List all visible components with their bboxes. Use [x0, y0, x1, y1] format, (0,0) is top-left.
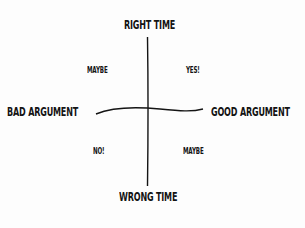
quadrant-label-bottom-right: MAYBE: [183, 146, 204, 156]
axis-label-right: GOOD ARGUMENT: [211, 104, 290, 119]
axis-label-bottom: WRONG TIME: [119, 189, 177, 204]
quadrant-label-bottom-left: NO!: [93, 146, 104, 156]
axis-label-left: BAD ARGUMENT: [7, 104, 78, 119]
horizontal-axis-line: [96, 108, 203, 114]
axis-label-top: RIGHT TIME: [124, 17, 175, 32]
quadrant-label-top-left: MAYBE: [87, 65, 108, 75]
vertical-axis-line: [148, 37, 149, 186]
quadrant-label-top-right: YES!: [186, 65, 200, 75]
